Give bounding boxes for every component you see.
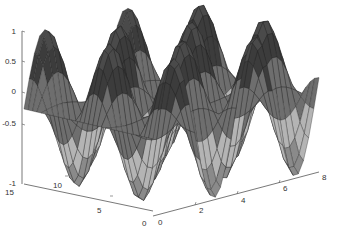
x-tick-6: 6 [283,184,288,193]
z-tick-neg1: -1 [9,179,17,188]
surface-plot: 1 0.5 0 -0.5 -1 15 10 5 0 0 2 4 6 8 [0,0,339,239]
y-tick-0: 0 [142,219,147,228]
x-axis-line [153,172,319,216]
z-tick-0: 0 [12,87,17,96]
x-tick-2: 2 [199,206,204,215]
surface-mesh [24,5,319,200]
x-tick-4: 4 [241,196,246,205]
x-tick-8: 8 [322,173,327,182]
x-tick-0: 0 [158,218,163,227]
z-tick-neg0.5: -0.5 [2,119,16,128]
y-tick-10: 10 [53,181,62,190]
y-tick-5: 5 [97,206,102,215]
y-tick-15: 15 [5,188,14,197]
z-tick-0.5: 0.5 [5,57,17,66]
z-tick-1: 1 [12,27,17,36]
